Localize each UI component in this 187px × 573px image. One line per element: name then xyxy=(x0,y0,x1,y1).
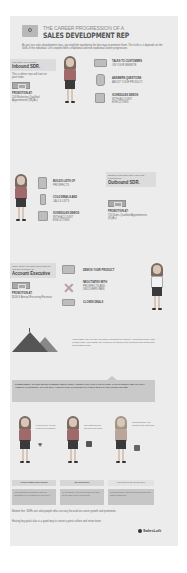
alt3-bubble: Learning to take your product to the rig… xyxy=(132,421,154,426)
alt1-bubble: It could be so you can teach a new custo… xyxy=(36,424,56,429)
cross-icon: ✕ xyxy=(63,282,75,294)
laptop-icon xyxy=(94,59,107,67)
megaphone-icon xyxy=(86,441,92,447)
money-badge-icon xyxy=(12,282,30,289)
stage1-task1-title: TALKS TO CUSTOMERS xyxy=(112,60,142,63)
money-badge-icon xyxy=(12,82,30,89)
stage1-task1-detail: ON YOUR WEBSITE xyxy=(112,64,136,67)
alt2-desc-box: As a marketer, you will generate the lea… xyxy=(60,489,104,505)
alt2-label: MARKETING xyxy=(60,480,104,486)
alt2-description: As a marketer, you will generate the lea… xyxy=(62,491,102,496)
alt1-desc-box: Your customers can quickly retain an emp… xyxy=(12,489,56,505)
closing-line-1: Bottom line: SDRs are salespeople who ca… xyxy=(12,510,152,513)
clipboard-icon xyxy=(38,177,47,189)
calendar-icon xyxy=(95,93,105,103)
closing-line-2: Having key goals also is a good way to c… xyxy=(12,520,152,523)
stage1-callout: let's start your newest Inbound SDR. xyxy=(10,59,56,71)
alternative-marketing: Get outside the box and learn new ideas xyxy=(60,416,106,488)
infographic: THE CAREER PROGRESSION OF A SALES DEVELO… xyxy=(10,16,178,546)
stage1-promotion-label: PROMOTION AT: xyxy=(12,92,32,95)
phone-icon xyxy=(40,194,46,205)
money-stack-icon xyxy=(62,299,75,306)
sdr-person-illustration xyxy=(63,56,77,106)
stage3-callout: Once again, her hard work paid off and s… xyxy=(10,263,56,278)
map-pin-icon xyxy=(22,25,38,37)
heart-icon: ♥ xyxy=(38,441,42,448)
stage3-task3-title: CLOSES DEALS xyxy=(83,301,103,304)
stage1-title: Inbound SDR. xyxy=(12,64,48,70)
stage3-task2-title: NEGOTIATES WITH xyxy=(83,281,107,284)
banner-text: SOMETIMES, SALES DEVELOPMENT REPS JUST A… xyxy=(12,380,155,393)
stage1-task3-title: SCHEDULES DEMOS xyxy=(112,94,138,97)
page-title: SALES DEVELOPMENT REP xyxy=(43,31,129,40)
stage2-promotion-value: 720 Sales Qualified Appointments (SQAs) xyxy=(108,214,150,220)
stage3-title: Account Executive xyxy=(12,271,48,277)
salesloft-logo: SalesLoft xyxy=(138,528,161,533)
stage2-task2-detail: CALLS LISTS xyxy=(53,200,69,203)
stage3-task1-title: DEMOS YOUR PRODUCT xyxy=(83,269,114,272)
intro-text: As you rise sales development reps, you … xyxy=(22,44,167,50)
stage2-callout: thanks to his hard work, she was promote… xyxy=(106,172,156,187)
stage1-task2-title: ANSWERS QUESTIONS xyxy=(112,77,141,80)
person-illustration xyxy=(114,416,128,466)
person-illustration xyxy=(18,416,32,466)
alternative-product-marketing: Learning to take your product to the rig… xyxy=(108,416,156,488)
alt2-bubble: Get outside the box and learn new ideas xyxy=(84,424,104,429)
stage2-promotion-label: PROMOTION AT: xyxy=(108,210,128,213)
calendar-icon xyxy=(38,211,48,221)
monitor-icon xyxy=(62,265,75,274)
stage1-description: This is where reps will start on your te… xyxy=(12,73,52,79)
stage1-task2-detail: ABOUT YOUR PRODUCT xyxy=(112,81,143,84)
alt3-desc-box: With good skills, learning the product c… xyxy=(108,489,154,505)
person-illustration xyxy=(66,416,80,466)
stage1-promotion-value: 240 Marketing Qualified Appointments (MQ… xyxy=(12,96,54,102)
alternative-customer-success: It could be so you can teach a new custo… xyxy=(12,416,58,488)
alt1-label: CUSTOMER SUCCESS xyxy=(12,480,56,486)
alt3-label: PRODUCT MARKETING xyxy=(108,480,154,486)
account-executive-person-illustration xyxy=(150,263,164,313)
alternative-path-banner: SOMETIMES, SALES DEVELOPMENT REPS JUST A… xyxy=(12,380,155,402)
money-badge-icon xyxy=(108,200,126,207)
person-question-icon xyxy=(96,74,105,86)
stage3-task2-detail: PROSPECTS AND UNCOVERS PAIN xyxy=(83,285,113,291)
stage2-task1-title: BUILDS LISTS OF xyxy=(53,180,75,183)
salesloft-logo-icon xyxy=(138,529,142,533)
stage1-task3-detail: WITH ACCOUNT EXECUTIVES xyxy=(112,98,147,104)
alt1-description: Your customers can quickly retain an emp… xyxy=(14,491,54,496)
stage2-title: Outbound SDR. xyxy=(108,180,147,186)
summit-text: If successful, the rep may be further pr… xyxy=(72,338,155,347)
stage2-task3-title: SCHEDULES DEMOS xyxy=(53,212,79,215)
stage2-task3-detail: WITH ACCOUNT EXECUTIVES xyxy=(53,216,83,222)
stage3-promotion-value: $100 K Annual Recurring Revenue xyxy=(12,296,54,299)
alt3-description: With good skills, learning the product c… xyxy=(110,491,152,496)
stage2-task2-title: COLD EMAILS AND xyxy=(53,196,77,199)
stage2-task1-detail: PROSPECTS xyxy=(53,184,69,187)
chart-icon xyxy=(134,445,140,451)
stage3-promotion-label: PROMOTION AT: xyxy=(12,292,32,295)
logo-text: SalesLoft xyxy=(143,528,161,533)
outbound-sdr-person-illustration xyxy=(14,174,28,224)
